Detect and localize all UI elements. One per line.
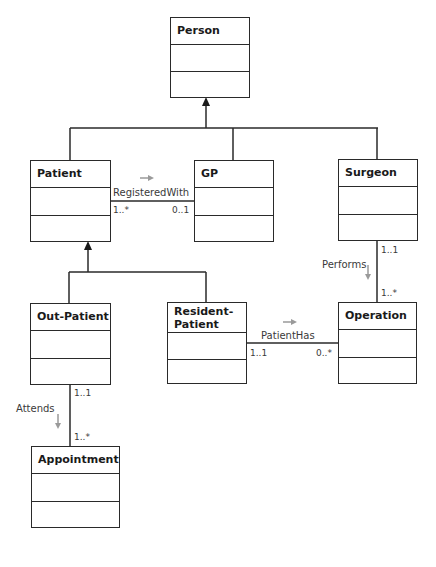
class-name: GP	[195, 161, 273, 188]
direction-arrow-attends	[55, 423, 61, 429]
class-name: Surgeon	[339, 160, 417, 187]
operations-compartment	[32, 502, 119, 526]
class-name: Resident- Patient	[168, 303, 246, 333]
multiplicity-out-patient-side: 1..1	[74, 388, 91, 398]
multiplicity-operation-side-patienthas: 0..*	[316, 348, 332, 358]
direction-arrow-performs	[365, 274, 371, 280]
class-patient[interactable]: Patient	[30, 160, 111, 242]
attributes-compartment	[339, 187, 417, 215]
class-name: Appointment	[32, 447, 119, 474]
class-resident-patient[interactable]: Resident- Patient	[167, 302, 247, 384]
attributes-compartment	[31, 331, 110, 359]
attributes-compartment	[339, 330, 416, 358]
multiplicity-surgeon-side: 1..1	[381, 245, 398, 255]
class-appointment[interactable]: Appointment	[31, 446, 120, 528]
operations-compartment	[31, 359, 110, 383]
generalization-arrowhead-patient	[84, 241, 92, 250]
class-operation[interactable]: Operation	[338, 302, 417, 384]
class-out-patient[interactable]: Out-Patient	[30, 303, 111, 385]
class-name-line-1: Resident-	[174, 305, 246, 318]
class-person[interactable]: Person	[170, 17, 250, 98]
association-label-performs: Performs	[322, 259, 366, 270]
multiplicity-operation-side-performs: 1..*	[381, 288, 397, 298]
association-label-attends: Attends	[16, 403, 55, 414]
generalization-arrowhead-person	[202, 97, 210, 106]
operations-compartment	[168, 360, 246, 382]
operations-compartment	[339, 358, 416, 382]
class-surgeon[interactable]: Surgeon	[338, 159, 418, 241]
operations-compartment	[195, 216, 273, 240]
direction-arrow-registeredwith	[148, 175, 154, 181]
class-name: Person	[171, 18, 249, 45]
class-gp[interactable]: GP	[194, 160, 274, 242]
operations-compartment	[339, 215, 417, 239]
multiplicity-patient-side: 1..*	[113, 205, 129, 215]
multiplicity-gp-side: 0..1	[172, 205, 189, 215]
operations-compartment	[31, 216, 110, 240]
attributes-compartment	[168, 333, 246, 360]
multiplicity-appointment-side: 1..*	[74, 432, 90, 442]
association-label-patienthas: PatientHas	[261, 330, 315, 341]
class-name: Operation	[339, 303, 416, 330]
direction-arrow-patienthas	[291, 319, 297, 325]
class-name: Patient	[31, 161, 110, 188]
attributes-compartment	[171, 45, 249, 72]
class-name: Out-Patient	[31, 304, 110, 331]
attributes-compartment	[31, 188, 110, 216]
attributes-compartment	[195, 188, 273, 216]
association-label-registeredwith: RegisteredWith	[113, 187, 189, 198]
operations-compartment	[171, 72, 249, 96]
multiplicity-resident-patient-side: 1..1	[250, 348, 267, 358]
class-name-line-2: Patient	[174, 318, 246, 331]
attributes-compartment	[32, 474, 119, 502]
